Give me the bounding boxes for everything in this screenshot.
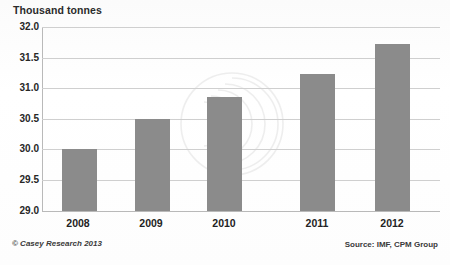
y-tick-label-0: 32.0 [3,21,39,32]
y-tick-label-5: 29.5 [3,174,39,185]
x-tick-label-2010: 2010 [194,217,254,229]
x-tick-label-2008: 2008 [48,217,108,229]
bar-2008 [62,149,97,210]
y-tick-label-3: 30.5 [3,113,39,124]
gridline-29-0-baseline [42,211,440,212]
y-tick-label-1: 31.5 [3,52,39,63]
copyright-credit: © Casey Research 2013 [12,239,102,248]
y-tick-label-6: 29.0 [3,205,39,216]
y-tick-label-4: 30.0 [3,143,39,154]
bar-2012 [375,44,410,210]
gridline-32-0 [42,27,440,28]
x-tick-label-2012: 2012 [362,217,422,229]
bar-2010 [207,97,242,210]
source-note: Source: IMF, CPM Group [345,240,438,249]
bar-chart-figure: Thousand tonnes 32.0 31.5 31.0 30.5 30.0… [0,0,450,265]
x-tick-label-2009: 2009 [121,217,181,229]
bar-2009 [135,119,170,211]
x-tick-label-2011: 2011 [287,217,347,229]
chart-title: Thousand tonnes [13,4,102,16]
bar-2011 [300,74,335,210]
y-tick-label-2: 31.0 [3,82,39,93]
